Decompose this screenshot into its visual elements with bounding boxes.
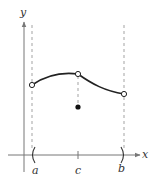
open-point-a	[29, 82, 34, 87]
label-b: b	[118, 162, 125, 175]
label-c: c	[75, 164, 81, 177]
y-axis-label: y	[19, 6, 27, 19]
open-point-b	[121, 91, 126, 96]
open-point-c	[75, 71, 80, 76]
function-graph: y x a c b	[0, 0, 155, 181]
label-a: a	[32, 164, 39, 177]
filled-point-c	[75, 104, 80, 109]
x-axis-label: x	[142, 148, 149, 161]
